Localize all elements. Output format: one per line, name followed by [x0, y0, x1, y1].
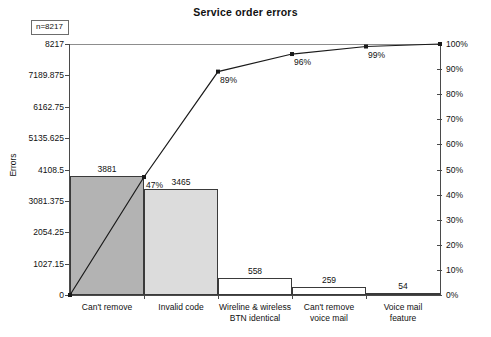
- category-label: Voice mail feature: [384, 302, 423, 324]
- bar: [292, 287, 366, 295]
- secondary-y-tick-mark: [437, 245, 442, 246]
- y-tick-label: 1027.15: [0, 259, 64, 269]
- bar-value-label: 54: [398, 281, 407, 291]
- secondary-y-tick-label: 40%: [446, 190, 463, 200]
- secondary-y-tick-label: 70%: [446, 114, 463, 124]
- secondary-y-tick-mark: [437, 119, 442, 120]
- secondary-y-tick-label: 30%: [446, 215, 463, 225]
- cumulative-percent-label: 96%: [294, 57, 311, 67]
- secondary-y-tick-mark: [437, 44, 442, 45]
- bar: [218, 278, 292, 295]
- x-tick-mark: [292, 295, 293, 299]
- chart-title: Service order errors: [0, 6, 491, 18]
- category-label: Can't remove: [82, 302, 132, 313]
- y-tick-label: 5135.625: [0, 133, 64, 143]
- secondary-y-tick-label: 60%: [446, 139, 463, 149]
- y-tick-label: 8217: [0, 39, 64, 49]
- y-tick-mark: [65, 75, 70, 76]
- x-tick-mark: [144, 295, 145, 299]
- secondary-y-tick-mark: [437, 220, 442, 221]
- y-tick-label: 4108.5: [0, 165, 64, 175]
- pareto-chart: Service order errors n=8217 Errors 01027…: [0, 0, 491, 337]
- bar: [366, 293, 440, 295]
- x-tick-mark: [218, 295, 219, 299]
- x-tick-mark: [366, 295, 367, 299]
- secondary-y-tick-mark: [437, 170, 442, 171]
- secondary-y-tick-label: 0%: [446, 290, 458, 300]
- sample-size-annotation: n=8217: [31, 20, 69, 35]
- y-tick-label: 7189.875: [0, 70, 64, 80]
- category-label: Wireline & wireless BTN identical: [219, 302, 291, 324]
- y-tick-mark: [65, 44, 70, 45]
- plot-top-border: [70, 44, 441, 45]
- secondary-y-tick-label: 80%: [446, 89, 463, 99]
- y-tick-label: 6162.75: [0, 102, 64, 112]
- secondary-y-tick-mark: [437, 144, 442, 145]
- secondary-y-tick-label: 90%: [446, 64, 463, 74]
- category-label: Can't remove voice mail: [304, 302, 354, 324]
- y-tick-mark: [65, 107, 70, 108]
- bar: [144, 189, 218, 295]
- bar-value-label: 3465: [172, 177, 191, 187]
- bar-value-label: 259: [322, 275, 336, 285]
- secondary-y-tick-label: 20%: [446, 240, 463, 250]
- bar: [70, 176, 144, 295]
- y-tick-mark: [65, 170, 70, 171]
- secondary-y-tick-mark: [437, 69, 442, 70]
- cumulative-percent-label: 89%: [220, 75, 237, 85]
- cumulative-percent-label: 47%: [146, 180, 163, 190]
- bar-value-label: 3881: [98, 164, 117, 174]
- y-tick-mark: [65, 138, 70, 139]
- cumulative-percent-label: 99%: [368, 50, 385, 60]
- category-label: Invalid code: [158, 302, 203, 313]
- y-tick-mark: [65, 295, 70, 296]
- secondary-y-tick-mark: [437, 94, 442, 95]
- secondary-y-tick-mark: [437, 270, 442, 271]
- secondary-y-tick-label: 100%: [446, 39, 468, 49]
- bar-value-label: 558: [248, 266, 262, 276]
- secondary-y-tick-label: 10%: [446, 265, 463, 275]
- y-tick-label: 2054.25: [0, 227, 64, 237]
- y-tick-label: 0: [0, 290, 64, 300]
- secondary-y-tick-mark: [437, 195, 442, 196]
- y-tick-label: 3081.375: [0, 196, 64, 206]
- secondary-y-tick-label: 50%: [446, 165, 463, 175]
